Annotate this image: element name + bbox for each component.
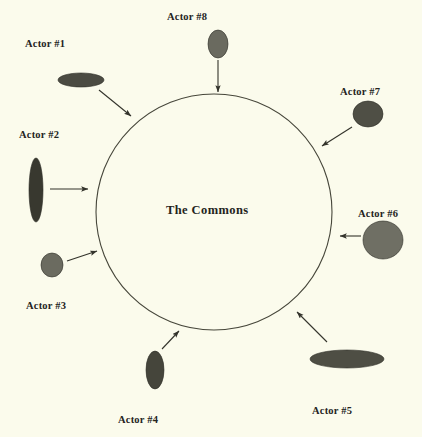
actor-4-shape: [146, 351, 164, 389]
actor-8-label: Actor #8: [167, 11, 207, 22]
actor-7-label: Actor #7: [340, 86, 380, 97]
actor-7-shape: [353, 101, 383, 127]
actor-3-label: Actor #3: [26, 300, 66, 311]
actor-1-arrow: [99, 90, 131, 116]
actor-5-shape: [310, 350, 384, 368]
commons-diagram: The Commons Actor #1Actor #2Actor #3Acto…: [0, 0, 422, 437]
actor-1-shape: [58, 73, 104, 87]
actor-5-arrow: [297, 312, 327, 342]
commons-label: The Commons: [166, 203, 249, 218]
actor-2-label: Actor #2: [19, 129, 59, 140]
actor-3-arrow: [67, 251, 97, 261]
actor-2-shape: [29, 158, 43, 222]
actor-6-shape: [363, 221, 403, 259]
actor-4-arrow: [162, 331, 179, 349]
actor-1-label: Actor #1: [25, 38, 65, 49]
actor-8-shape: [208, 30, 228, 58]
actor-3-shape: [41, 253, 63, 277]
actor-5-label: Actor #5: [312, 405, 352, 416]
actor-6-label: Actor #6: [358, 208, 398, 219]
actor-4-label: Actor #4: [118, 414, 158, 425]
actor-7-arrow: [322, 127, 352, 146]
